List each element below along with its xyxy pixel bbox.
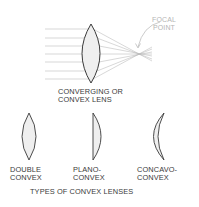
plano-convex-label: PLANO- CONVEX xyxy=(73,166,105,183)
converging-rays xyxy=(93,29,152,79)
double-convex-lens-icon xyxy=(22,113,36,160)
plano-convex-label-line2: CONVEX xyxy=(73,174,105,182)
main-lens-caption: CONVERGING OR CONVEX LENS xyxy=(58,88,123,105)
converging-lens-shape xyxy=(82,24,100,83)
main-lens-caption-line2: CONVEX LENS xyxy=(58,96,123,104)
focal-label-line1: FOCAL xyxy=(152,16,176,24)
double-convex-label-line2: CONVEX xyxy=(10,174,42,182)
concavo-convex-label-line2: CONVEX xyxy=(137,174,177,182)
focal-label-line2: POINT xyxy=(152,24,176,32)
focal-point-label: FOCAL POINT xyxy=(152,16,176,32)
concavo-convex-lens-icon xyxy=(154,113,165,160)
double-convex-label: DOUBLE CONVEX xyxy=(10,166,42,183)
section-title: TYPES OF CONVEX LENSES xyxy=(30,188,133,196)
concavo-convex-label: CONCAVO- CONVEX xyxy=(137,166,177,183)
plano-convex-lens-icon xyxy=(93,113,101,160)
